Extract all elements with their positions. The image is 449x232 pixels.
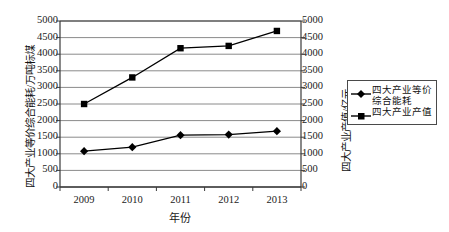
chart-legend: 四大产业等价 综合能耗 四大产业产值: [347, 80, 437, 125]
x-axis-title: 年份: [0, 209, 360, 225]
legend-item-label: 四大产业产值: [372, 107, 432, 118]
x-tick-label: 2010: [111, 194, 153, 205]
square-marker-icon: [350, 108, 372, 120]
series-layer: [80, 28, 281, 155]
x-tick-label: 2012: [208, 194, 250, 205]
chart-figure: 四大产业等价综合能耗/万吨标煤 四大产业产值/亿元 05001000150020…: [0, 0, 449, 232]
legend-item[interactable]: 四大产业等价 综合能耗: [350, 85, 432, 106]
x-tick-label: 2009: [63, 194, 105, 205]
x-tick-label: 2013: [256, 194, 298, 205]
x-tick-label: 2011: [160, 194, 202, 205]
legend-item[interactable]: 四大产业产值: [350, 107, 432, 120]
diamond-marker-icon: [350, 86, 372, 98]
legend-item-label: 四大产业等价 综合能耗: [372, 85, 432, 106]
